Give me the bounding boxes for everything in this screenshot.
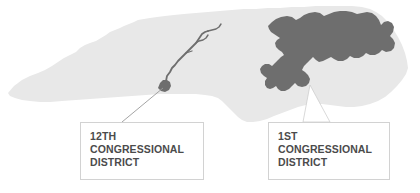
callout-1-line-3: DISTRICT: [278, 156, 380, 169]
callout-12-line-3: DISTRICT: [90, 156, 194, 169]
callout-1-line-2: CONGRESSIONAL: [278, 143, 380, 156]
callout-box-district-12[interactable]: 12TH CONGRESSIONAL DISTRICT: [80, 122, 204, 180]
callout-1-line-1: 1ST: [278, 130, 380, 143]
map-figure: 12TH CONGRESSIONAL DISTRICT 1ST CONGRESS…: [0, 0, 420, 193]
callout-box-district-1[interactable]: 1ST CONGRESSIONAL DISTRICT: [268, 122, 390, 180]
callout-12-line-2: CONGRESSIONAL: [90, 143, 194, 156]
callout-12-line-1: 12TH: [90, 130, 194, 143]
